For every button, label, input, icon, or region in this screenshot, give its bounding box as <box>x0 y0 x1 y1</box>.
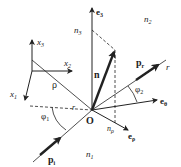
label-phi1: φ1 <box>41 111 49 122</box>
e-theta-vector <box>92 100 157 110</box>
x1-axis <box>25 71 32 100</box>
label-n2: n2 <box>144 14 152 25</box>
label-e3: e3 <box>96 7 103 18</box>
incident-momentum-pi <box>40 138 60 155</box>
label-e-rho: eρ <box>128 131 135 142</box>
label-e-theta: eθ <box>160 96 167 107</box>
dashed-projection-top <box>92 30 115 50</box>
label-r-left: r <box>72 103 76 112</box>
label-x1: x1 <box>9 89 17 100</box>
label-n: n <box>94 69 100 80</box>
diagram-canvas: e3 n3 n2 n pr r φ2 eθ x3 x2 x1 ρ r φ1 O … <box>0 0 181 167</box>
label-origin: O <box>86 115 94 126</box>
label-n-rho: nρ <box>107 124 114 134</box>
label-x3: x3 <box>36 37 44 48</box>
label-rho: ρ <box>52 79 57 90</box>
normal-vector-n <box>92 52 114 110</box>
label-n3: n3 <box>74 25 82 36</box>
label-pi: pi <box>48 154 56 166</box>
phi1-arc <box>52 107 66 130</box>
dashed-horizontal <box>30 106 92 110</box>
label-r-upper: r <box>166 62 170 72</box>
label-x2: x2 <box>63 58 71 69</box>
rho-line <box>32 60 92 110</box>
label-phi2: φ2 <box>135 84 143 95</box>
label-n1: n1 <box>86 149 94 160</box>
label-pr: pr <box>136 57 145 69</box>
